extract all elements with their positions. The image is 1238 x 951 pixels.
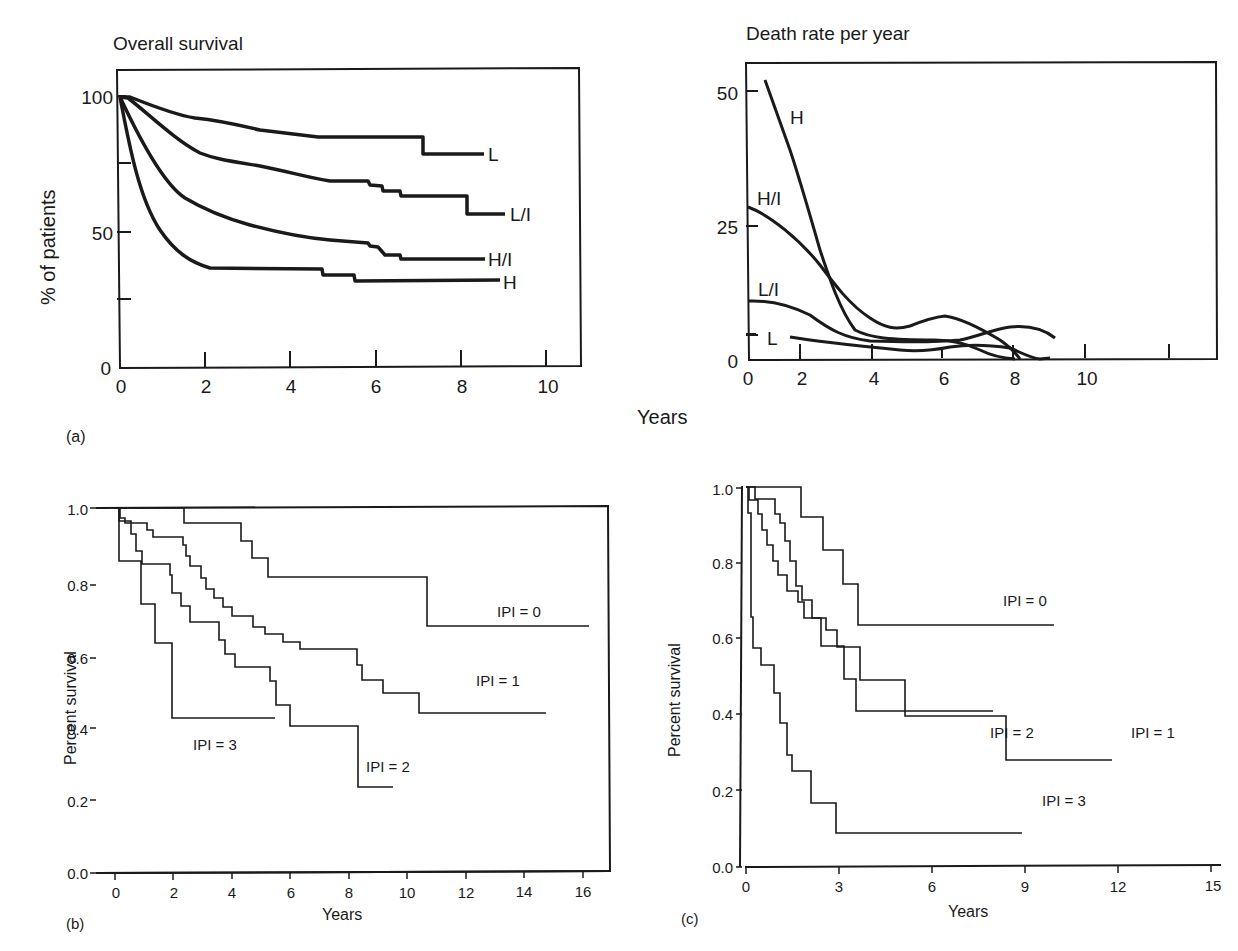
svg-text:6: 6: [928, 878, 936, 895]
curve-labels: L L/I H/I H: [488, 144, 531, 293]
svg-text:IPI = 3: IPI = 3: [193, 736, 237, 753]
svg-text:15: 15: [1205, 877, 1222, 894]
svg-text:6: 6: [287, 884, 295, 901]
x-axis-label: Years: [322, 906, 362, 923]
chart-b-ipi-survival: 1.0 0.8 0.6 0.4 0.2 0.0 Percent survival…: [62, 501, 610, 932]
svg-text:0: 0: [727, 351, 738, 372]
y-axis-label: % of patients: [37, 189, 59, 305]
curve-L: [120, 97, 484, 154]
svg-text:L/I: L/I: [510, 204, 531, 225]
svg-text:1.0: 1.0: [67, 501, 88, 518]
x-tick-labels: 0 3 6 9 12 15: [742, 877, 1222, 895]
svg-text:L: L: [767, 328, 778, 349]
svg-text:0.0: 0.0: [67, 865, 88, 882]
svg-text:0: 0: [116, 376, 127, 397]
panel-label-c: (c): [681, 910, 699, 927]
svg-text:0: 0: [112, 884, 120, 901]
svg-text:10: 10: [537, 376, 558, 397]
svg-text:8: 8: [1010, 368, 1021, 389]
svg-text:12: 12: [1110, 878, 1127, 895]
svg-text:IPI = 3: IPI = 3: [1042, 792, 1086, 809]
y-tick-labels: 100 50 0: [81, 87, 113, 379]
y-axis-label: Percent survival: [62, 651, 79, 765]
svg-text:0: 0: [100, 358, 111, 379]
curves: [746, 487, 1112, 833]
chart-c-ipi-survival: 1.0 0.8 0.6 0.4 0.2 0.0 Percent survival…: [666, 481, 1221, 927]
x-axis: [205, 350, 546, 367]
svg-text:IPI = 2: IPI = 2: [366, 758, 410, 775]
curve-ipi-3: [746, 487, 1022, 833]
svg-text:0.8: 0.8: [712, 555, 733, 572]
shared-x-axis-label: Years: [637, 406, 687, 428]
svg-text:6: 6: [371, 376, 382, 397]
svg-text:50: 50: [92, 223, 113, 244]
panel-label-b: (b): [66, 915, 84, 932]
svg-text:L/I: L/I: [758, 279, 779, 300]
svg-text:10: 10: [1076, 368, 1097, 389]
panel-label-a: (a): [66, 428, 86, 445]
curve-labels: IPI = 0 IPI = 1 IPI = 2 IPI = 3: [193, 603, 541, 775]
svg-text:IPI = 0: IPI = 0: [1003, 592, 1047, 609]
y-tick-labels: 50 25 0: [717, 83, 738, 372]
y-axis-label: Percent survival: [666, 643, 683, 757]
svg-text:IPI = 0: IPI = 0: [497, 603, 541, 620]
svg-text:14: 14: [516, 883, 533, 900]
chart-title: Overall survival: [113, 33, 243, 54]
svg-text:0.4: 0.4: [712, 706, 733, 723]
plot-frame: [746, 62, 1217, 360]
svg-text:10: 10: [399, 884, 416, 901]
curve-ipi-1: [746, 487, 1112, 760]
svg-text:50: 50: [717, 83, 738, 104]
svg-text:H/I: H/I: [488, 249, 512, 270]
svg-text:H/I: H/I: [757, 188, 781, 209]
svg-text:0: 0: [743, 368, 754, 389]
svg-text:2: 2: [170, 884, 178, 901]
svg-text:IPI = 2: IPI = 2: [990, 724, 1034, 741]
curves: [115, 508, 589, 787]
chart-title: Death rate per year: [746, 23, 910, 44]
svg-text:6: 6: [939, 368, 950, 389]
curve-H-I: [120, 97, 485, 259]
svg-text:3: 3: [835, 878, 843, 895]
svg-text:2: 2: [797, 368, 808, 389]
svg-text:25: 25: [717, 217, 738, 238]
svg-text:0.6: 0.6: [712, 630, 733, 647]
curve-ipi-3: [115, 508, 275, 718]
x-axis-line: [96, 871, 610, 873]
svg-text:1.0: 1.0: [712, 481, 733, 498]
figure: Overall survival 100 50 0 % of patients …: [0, 0, 1238, 951]
x-axis-line: [745, 865, 1221, 867]
svg-text:L: L: [488, 144, 499, 165]
x-tick-labels: 0 2 4 6 8 10 12 14 16: [112, 883, 592, 901]
curve-ipi-2: [746, 487, 993, 711]
svg-text:IPI = 1: IPI = 1: [476, 672, 520, 689]
svg-text:16: 16: [575, 883, 592, 900]
y-axis-line: [740, 486, 742, 867]
x-tick-labels: 0 2 4 6 8 10: [116, 376, 559, 397]
chart-overall-survival: Overall survival 100 50 0 % of patients …: [37, 33, 581, 445]
svg-text:100: 100: [81, 87, 113, 108]
svg-text:0.8: 0.8: [67, 577, 88, 594]
chart-death-rate: Death rate per year 50 25 0 0 2 4 6 8 10: [637, 23, 1217, 428]
curve-H: [120, 97, 500, 281]
plot-frame: [96, 506, 610, 873]
svg-text:0.2: 0.2: [67, 793, 88, 810]
svg-text:12: 12: [458, 884, 475, 901]
svg-text:IPI = 1: IPI = 1: [1131, 724, 1175, 741]
curves: [120, 97, 505, 281]
svg-text:2: 2: [201, 376, 212, 397]
x-tick-labels: 0 2 4 6 8 10 10: [743, 368, 1098, 389]
x-axis-label: Years: [948, 903, 988, 920]
svg-text:0.2: 0.2: [712, 783, 733, 800]
svg-text:H: H: [503, 272, 517, 293]
svg-text:8: 8: [345, 884, 353, 901]
svg-text:4: 4: [869, 368, 880, 389]
svg-text:9: 9: [1021, 878, 1029, 895]
svg-text:4: 4: [286, 376, 297, 397]
svg-text:0: 0: [742, 878, 750, 895]
y-tick-labels: 1.0 0.8 0.6 0.4 0.2 0.0: [712, 481, 733, 876]
curve-ipi-2: [115, 508, 393, 787]
y-axis: [90, 508, 96, 873]
svg-text:4: 4: [228, 884, 236, 901]
svg-text:H: H: [790, 107, 804, 128]
